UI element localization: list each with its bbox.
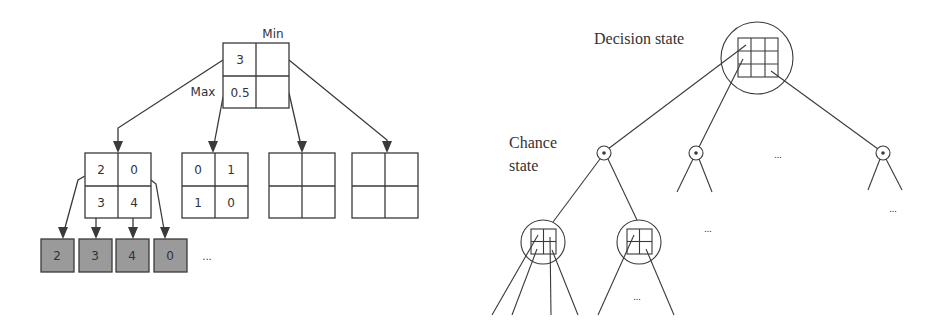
decision2-subtree-ellipsis: ... [633, 291, 641, 302]
edge-child1-leaf4 [151, 180, 165, 235]
chance-row-ellipsis: ... [774, 149, 782, 160]
edge-decision1-branch-4 [552, 250, 578, 315]
edge-chance1-decision1 [553, 159, 600, 222]
arrowhead-icon [91, 227, 101, 239]
arrowhead-icon [160, 227, 170, 239]
decision-state-child-1 [521, 220, 565, 264]
leaf-value-3: 4 [128, 249, 136, 263]
child1-cell-1: 0 [130, 163, 138, 177]
expectimax-tree-diagram [492, 22, 902, 315]
edge-root-chance3 [771, 71, 878, 149]
max-label: Max [191, 85, 216, 99]
child2-cell-3: 0 [227, 196, 235, 210]
edge-decision2-branch-2 [646, 249, 674, 315]
decision-state-root [721, 22, 793, 94]
edge-chance2-branch-left [677, 159, 693, 192]
edge-chance3-branch-left [868, 159, 880, 190]
child1-cell-3: 4 [130, 196, 138, 210]
chance3-subtree-ellipsis: ... [889, 203, 897, 214]
leaf-nodes [41, 239, 187, 272]
child-node-1 [85, 153, 151, 218]
diagram-canvas: Min Max 3 0.5 2 0 3 4 0 1 1 0 2 3 4 0 ..… [0, 0, 941, 333]
edge-chance1-decision2 [608, 159, 637, 220]
arrowhead-icon [113, 141, 123, 153]
child-node-4 [352, 153, 418, 218]
chance-state-label-line2: state [509, 157, 538, 174]
arrowhead-icon [297, 141, 307, 153]
child2-cell-0: 0 [194, 163, 202, 177]
decision-row-ellipsis: ... [704, 223, 712, 234]
arrowhead-icon [128, 227, 138, 239]
decision-state-label: Decision state [594, 30, 684, 47]
edge-decision2-branch-1 [598, 235, 634, 315]
edge-root-child1 [118, 60, 223, 150]
edge-root-chance1 [608, 45, 746, 149]
root-cell-0: 3 [236, 53, 244, 67]
chance-node-1 [597, 146, 611, 160]
minimax-tree-diagram [41, 43, 418, 272]
child1-cell-2: 3 [97, 196, 105, 210]
arrowhead-icon [58, 227, 68, 239]
child2-cell-2: 1 [194, 196, 202, 210]
chance-node-2 [689, 146, 703, 160]
edge-chance3-branch-right [886, 159, 902, 190]
leaves-ellipsis: ... [202, 251, 212, 262]
arrowhead-icon [208, 141, 218, 153]
edge-decision1-branch-1 [492, 235, 538, 315]
edge-chance2-branch-right [699, 159, 712, 192]
chance-state-label-line1: Chance [509, 134, 557, 151]
leaf-value-1: 2 [53, 249, 61, 263]
leaf-value-4: 0 [166, 249, 174, 263]
edge-child1-leaf1 [63, 176, 85, 235]
child2-cell-1: 1 [227, 163, 235, 177]
child-node-2 [182, 153, 248, 218]
root-cell-2: 0.5 [230, 86, 249, 100]
arrowhead-icon [382, 141, 392, 153]
chance-node-3 [876, 146, 890, 160]
min-label: Min [262, 27, 283, 41]
child1-cell-0: 2 [97, 163, 105, 177]
edge-root-chance2 [699, 59, 743, 147]
edge-root-child4 [289, 60, 387, 150]
leaf-value-2: 3 [91, 249, 99, 263]
child-node-3 [269, 153, 335, 218]
